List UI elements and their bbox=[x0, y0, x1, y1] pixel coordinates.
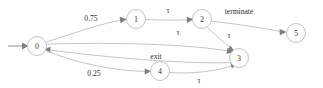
edge-label-0.75: 0.75 bbox=[84, 14, 97, 23]
edge-0-to-1[interactable]: 0.75 bbox=[46, 14, 127, 42]
start-marker bbox=[8, 43, 29, 50]
state-diagram-canvas: 0.75 τ terminate τ τ bbox=[0, 0, 323, 88]
edge-3-to-0[interactable]: exit bbox=[44, 47, 230, 63]
edge-4-to-3[interactable]: τ bbox=[169, 63, 236, 85]
edge-2-to-5[interactable]: terminate bbox=[211, 7, 286, 35]
edge-0-to-1-path bbox=[46, 20, 124, 43]
node-3-label: 3 bbox=[237, 54, 241, 63]
node-2[interactable]: 2 bbox=[193, 10, 212, 29]
node-5[interactable]: 5 bbox=[287, 24, 306, 43]
node-4-label: 4 bbox=[158, 67, 162, 76]
node-1-label: 1 bbox=[134, 15, 138, 24]
state-diagram-svg: 0.75 τ terminate τ τ bbox=[0, 0, 323, 88]
edge-1-to-2-path bbox=[146, 19, 191, 20]
edge-2-to-3[interactable]: τ bbox=[208, 28, 235, 52]
edge-label-0.25: 0.25 bbox=[87, 69, 100, 78]
edge-0-to-3[interactable]: τ bbox=[46, 28, 233, 54]
edge-0-to-4[interactable]: 0.25 bbox=[45, 50, 151, 78]
edge-1-to-2[interactable]: τ bbox=[146, 6, 194, 23]
edge-label-terminate: terminate bbox=[225, 7, 254, 16]
edge-2-to-5-arrowhead bbox=[280, 29, 287, 35]
edge-label-tau-1-2: τ bbox=[166, 6, 169, 15]
node-0-label: 0 bbox=[35, 42, 39, 51]
edge-3-to-0-path bbox=[47, 50, 231, 63]
edge-0-to-1-arrowhead bbox=[120, 17, 127, 23]
edge-label-exit: exit bbox=[150, 52, 162, 61]
edge-0-to-3-path bbox=[46, 43, 230, 51]
edge-label-tau-0-3: τ bbox=[176, 28, 179, 37]
node-3[interactable]: 3 bbox=[230, 49, 249, 68]
edge-4-to-3-path bbox=[169, 65, 234, 73]
node-4[interactable]: 4 bbox=[151, 62, 170, 81]
node-5-label: 5 bbox=[294, 29, 298, 38]
node-1[interactable]: 1 bbox=[127, 10, 146, 29]
node-0[interactable]: 0 bbox=[28, 37, 47, 56]
node-2-label: 2 bbox=[200, 15, 204, 24]
edge-label-tau-2-3: τ bbox=[227, 31, 230, 40]
edge-2-to-5-path bbox=[211, 21, 283, 32]
edge-label-tau-4-3: τ bbox=[197, 76, 200, 85]
